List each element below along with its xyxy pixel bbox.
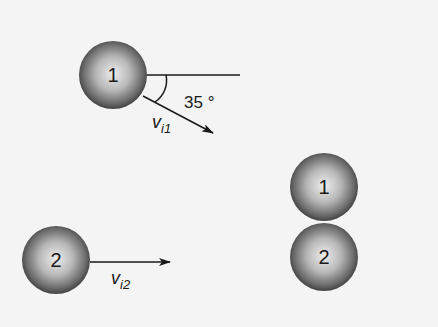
ball-2-after-label: 2 xyxy=(318,246,329,268)
angle-label: 35 ° xyxy=(184,93,214,112)
ball-1-after-label: 1 xyxy=(318,176,329,198)
ball-2-after: 2 xyxy=(290,223,358,291)
ball-1-before-label: 1 xyxy=(107,64,118,86)
ball-1-after: 1 xyxy=(290,153,358,221)
ball-1-before: 1 xyxy=(79,41,147,109)
velocity-2-sub: i2 xyxy=(120,277,131,292)
ball-2-before: 2 xyxy=(22,226,90,294)
ball-2-before-label: 2 xyxy=(50,249,61,271)
velocity-1-label: vi1 xyxy=(152,112,171,136)
velocity-1-sub: i1 xyxy=(161,121,171,136)
collision-diagram: 1 35 ° vi1 2 vi2 1 2 xyxy=(0,0,438,327)
velocity-2-label: vi2 xyxy=(111,268,131,292)
diagram-canvas: 1 35 ° vi1 2 vi2 1 2 xyxy=(0,0,438,327)
angle-arc xyxy=(155,75,167,102)
